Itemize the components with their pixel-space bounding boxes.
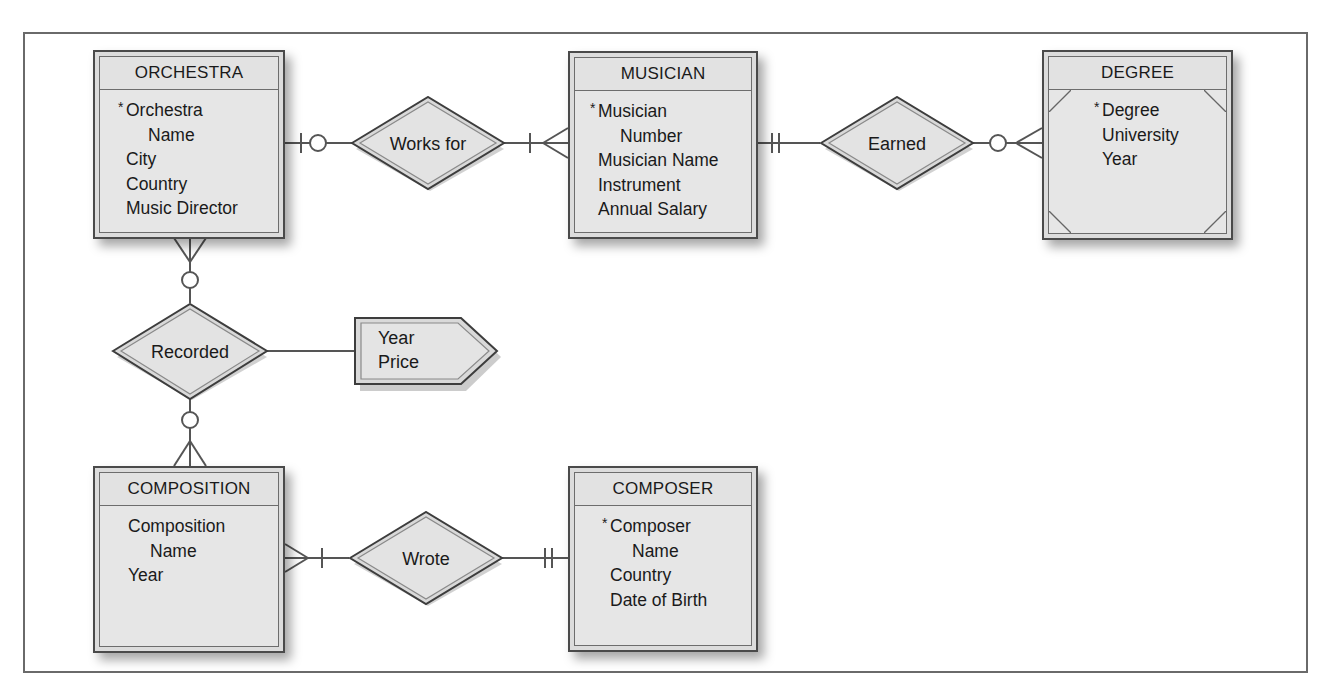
attribute: Composition [128, 514, 278, 539]
attribute: University [1102, 123, 1226, 148]
attribute: Annual Salary [598, 197, 751, 222]
attribute: Name [128, 539, 278, 564]
entity-composition: COMPOSITION Composition Name Year [93, 466, 285, 653]
attribute-primary-key: Composer [610, 514, 751, 539]
weak-entity-corner-icon [1204, 211, 1226, 233]
weak-entity-corner-icon [1049, 211, 1071, 233]
associative-attributes-box: Year Price [354, 317, 502, 391]
entity-title: COMPOSER [575, 473, 751, 506]
crowsfoot-lower [543, 143, 568, 158]
attribute: Number [598, 124, 751, 149]
attribute: Name [610, 539, 751, 564]
attribute: Year [1102, 147, 1226, 172]
attribute: Name [126, 123, 278, 148]
pentagon-shape-icon [354, 317, 502, 391]
weak-entity-corner-icon [1049, 90, 1071, 112]
attribute: Country [610, 563, 751, 588]
attribute-primary-key: Musician [598, 99, 751, 124]
entity-title: DEGREE [1049, 57, 1226, 90]
crowsfoot-upper [543, 128, 568, 143]
entity-title: MUSICIAN [575, 58, 751, 91]
entity-title: COMPOSITION [100, 473, 278, 506]
entity-musician: MUSICIAN Musician Number Musician Name I… [568, 51, 758, 239]
relationship-label: Earned [819, 96, 975, 192]
attribute: Country [126, 172, 278, 197]
attribute-primary-key: Orchestra [126, 98, 278, 123]
attribute: Musician Name [598, 148, 751, 173]
attribute: Year [128, 563, 278, 588]
attribute: City [126, 147, 278, 172]
entity-title: ORCHESTRA [100, 57, 278, 90]
attribute: Instrument [598, 173, 751, 198]
relationship-wrote: Wrote [348, 511, 504, 607]
attribute: Price [378, 350, 419, 374]
relationship-recorded: Recorded [111, 303, 269, 401]
entity-composer: COMPOSER Composer Name Country Date of B… [568, 466, 758, 652]
attribute-primary-key: Degree [1102, 98, 1226, 123]
attribute: Date of Birth [610, 588, 751, 613]
relationship-label: Wrote [348, 511, 504, 607]
entity-orchestra: ORCHESTRA Orchestra Name City Country Mu… [93, 50, 285, 239]
relationship-label: Works for [350, 96, 506, 192]
attribute: Music Director [126, 196, 278, 221]
relationship-works-for: Works for [350, 96, 506, 192]
relationship-label: Recorded [111, 303, 269, 401]
relationship-earned: Earned [819, 96, 975, 192]
cardinality-optional-circle [310, 135, 326, 151]
attribute: Year [378, 326, 419, 350]
entity-degree: DEGREE Degree University Year [1042, 50, 1233, 240]
